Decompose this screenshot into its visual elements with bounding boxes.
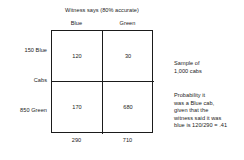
cell-blue-cab-witness-blue: 120 xyxy=(52,31,102,81)
column-header-green: Green xyxy=(102,20,153,28)
row-axis-label-cabs: Cabs xyxy=(0,77,47,85)
column-header-blue: Blue xyxy=(51,20,102,28)
column-total-blue: 290 xyxy=(51,137,102,145)
row-label-green-cabs: 850 Green xyxy=(0,107,47,115)
note-probability-line-1: Probability it xyxy=(174,92,244,100)
note-sample-line-2: 1,000 cabs xyxy=(174,68,244,76)
note-probability-line-2: was a Blue cab, xyxy=(174,100,244,108)
note-probability-line-4: witness said it was xyxy=(174,115,244,123)
column-total-green: 710 xyxy=(102,137,153,145)
contingency-grid: 120 30 170 680 xyxy=(51,30,153,133)
note-probability-line-5: blue is 120/290 = .41 xyxy=(174,122,244,130)
note-probability-line-3: given that the xyxy=(174,107,244,115)
figure-title: Witness says (80% accurate) xyxy=(0,7,204,15)
contingency-table-figure: Witness says (80% accurate) Blue Green 1… xyxy=(0,0,244,160)
cell-green-cab-witness-green: 680 xyxy=(103,82,153,132)
cell-green-cab-witness-blue: 170 xyxy=(52,82,102,132)
row-label-blue-cabs: 150 Blue xyxy=(0,47,47,55)
note-probability: Probability it was a Blue cab, given tha… xyxy=(174,92,244,130)
note-sample-size: Sample of 1,000 cabs xyxy=(174,60,244,75)
note-sample-line-1: Sample of xyxy=(174,60,244,68)
cell-blue-cab-witness-green: 30 xyxy=(103,31,153,81)
